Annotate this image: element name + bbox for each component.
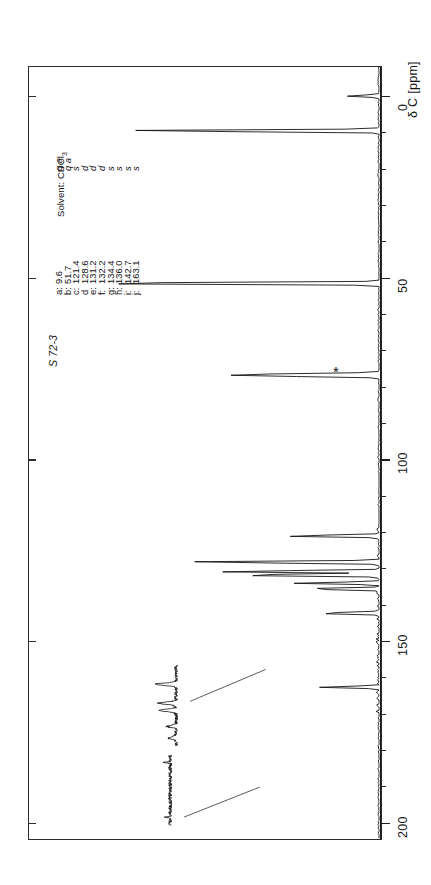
sample-id-label: S 72-3: [47, 335, 59, 367]
expansion-leader-2: [184, 787, 260, 817]
axis-tick-left: [29, 641, 36, 642]
axis-tick-label: 150: [396, 634, 410, 656]
axis-tick-major: [381, 641, 390, 642]
axis-tick-minor: [381, 750, 386, 751]
axis-tick-left: [29, 823, 36, 824]
expansion-trace-1: [155, 665, 178, 745]
solvent-peak-marker: *: [333, 364, 339, 379]
axis-tick-minor: [381, 423, 386, 424]
axis-tick-minor: [381, 241, 386, 242]
axis-title: δ C [ppm]: [406, 61, 420, 118]
spectrum-path: [119, 67, 379, 838]
expansion-leader-1: [190, 669, 266, 701]
axis-tick-minor: [381, 677, 386, 678]
multiplicity-label: s: [130, 166, 141, 171]
axis-tick-left: [29, 278, 36, 279]
axis-tick-minor: [381, 132, 386, 133]
solvent-name-subscript: 3: [61, 152, 68, 156]
axis-tick-minor: [381, 169, 386, 170]
axis-tick-minor: [381, 786, 386, 787]
axis-tick-major: [381, 96, 390, 97]
axis-tick-minor: [381, 350, 386, 351]
axis-tick-minor: [381, 387, 386, 388]
axis-tick-minor: [381, 568, 386, 569]
axis-tick-left: [29, 459, 36, 460]
axis-tick-left: [29, 96, 36, 97]
axis-tick-label: 50: [396, 278, 410, 293]
axis-tick-minor: [381, 314, 386, 315]
plot-frame: * S 72-3 Solvent: CDCl3 a:9.6b:51.7c:121…: [28, 66, 382, 840]
axis-tick-major: [381, 459, 390, 460]
nmr-figure: * S 72-3 Solvent: CDCl3 a:9.6b:51.7c:121…: [0, 0, 431, 885]
page-caption: [60, 0, 360, 14]
axis-tick-label: 200: [396, 816, 410, 838]
axis-tick-minor: [381, 205, 386, 206]
axis-tick-label: 100: [396, 453, 410, 475]
axis-tick-minor: [381, 532, 386, 533]
axis-tick-minor: [381, 496, 386, 497]
assignment-label: j:: [130, 284, 141, 295]
axis-tick-minor: [381, 714, 386, 715]
axis-tick-major: [381, 278, 390, 279]
axis-tick-major: [381, 823, 390, 824]
spectrum-trace: [29, 67, 381, 839]
assignment-shift: 163.1: [130, 261, 141, 284]
axis-tick-minor: [381, 605, 386, 606]
expansion-trace-2: [163, 755, 172, 825]
solvent-label-text: Solvent:: [55, 182, 66, 217]
assignment-row: j:163.1: [130, 261, 141, 295]
